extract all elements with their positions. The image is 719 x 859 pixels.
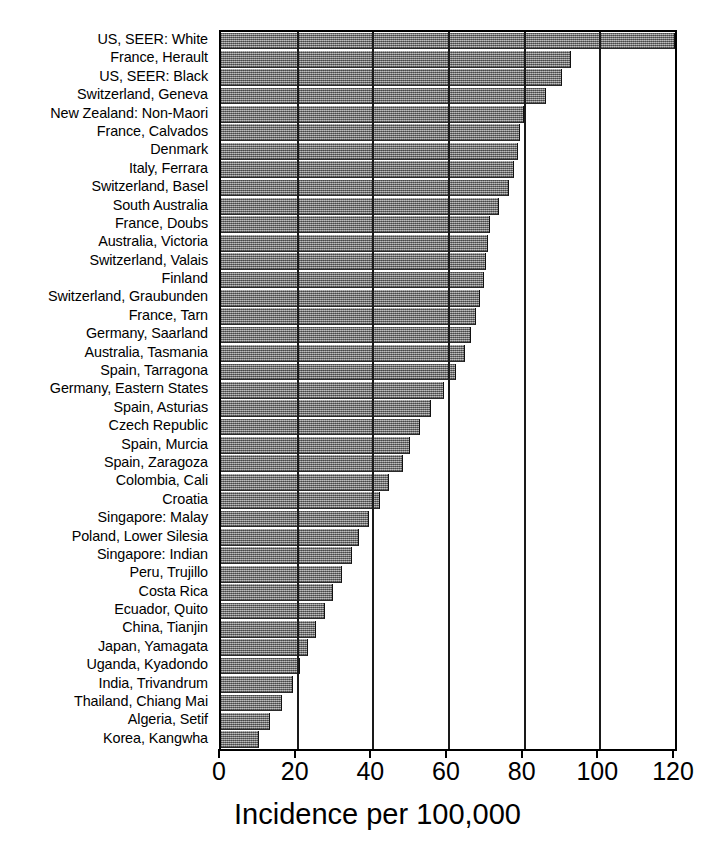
- category-label: Ecuador, Quito: [0, 600, 214, 618]
- category-label: Australia, Victoria: [0, 232, 214, 250]
- x-axis-title: Incidence per 100,000: [0, 800, 719, 829]
- bar-chart: US, SEER: WhiteFrance, HeraultUS, SEER: …: [0, 0, 719, 859]
- category-label: Czech Republic: [0, 416, 214, 434]
- category-label: Germany, Saarland: [0, 324, 214, 342]
- category-label: Korea, Kangwha: [0, 729, 214, 747]
- x-tick-label: 0: [212, 759, 226, 784]
- gridline: [372, 32, 374, 749]
- category-label: Singapore: Malay: [0, 508, 214, 526]
- category-label: New Zealand: Non-Maori: [0, 104, 214, 122]
- category-label: Poland, Lower Silesia: [0, 527, 214, 545]
- category-label: China, Tianjin: [0, 619, 214, 637]
- category-label: Japan, Yamagata: [0, 637, 214, 655]
- bar: [221, 455, 403, 472]
- bar: [221, 676, 293, 693]
- category-label: Uganda, Kyadondo: [0, 655, 214, 673]
- bar: [221, 713, 270, 730]
- category-label: Spain, Zaragoza: [0, 453, 214, 471]
- bar: [221, 308, 476, 325]
- bar: [221, 603, 325, 620]
- category-label: South Australia: [0, 196, 214, 214]
- gridline: [448, 32, 450, 749]
- category-label: France, Calvados: [0, 122, 214, 140]
- category-label: Switzerland, Valais: [0, 251, 214, 269]
- bar: [221, 382, 444, 399]
- bar: [221, 547, 352, 564]
- bar: [221, 161, 514, 178]
- bar: [221, 474, 389, 491]
- category-label: Peru, Trujillo: [0, 563, 214, 581]
- bar: [221, 511, 369, 528]
- bar: [221, 51, 571, 68]
- plot-area: [219, 30, 677, 751]
- bar: [221, 88, 546, 105]
- bar: [221, 345, 465, 362]
- category-label: India, Trivandrum: [0, 674, 214, 692]
- gridline: [599, 32, 601, 749]
- category-label: Germany, Eastern States: [0, 379, 214, 397]
- category-label: Italy, Ferrara: [0, 159, 214, 177]
- category-label: Costa Rica: [0, 582, 214, 600]
- bar: [221, 639, 308, 656]
- gridline: [524, 32, 526, 749]
- category-label: France, Doubs: [0, 214, 214, 232]
- bar: [221, 658, 300, 675]
- bar: [221, 290, 480, 307]
- category-label: Algeria, Setif: [0, 710, 214, 728]
- category-label: Spain, Asturias: [0, 398, 214, 416]
- x-tick-label: 80: [508, 759, 536, 784]
- category-label: Croatia: [0, 490, 214, 508]
- category-label: Australia, Tasmania: [0, 343, 214, 361]
- category-label: Switzerland, Graubunden: [0, 287, 214, 305]
- bar: [221, 272, 484, 289]
- bar: [221, 143, 518, 160]
- x-tick-label: 20: [281, 759, 309, 784]
- category-label: France, Herault: [0, 48, 214, 66]
- bar: [221, 180, 509, 197]
- gridline: [297, 32, 299, 749]
- plot-inner: [221, 32, 675, 749]
- x-tick-label: 100: [576, 759, 618, 784]
- bar: [221, 198, 499, 215]
- bar: [221, 419, 420, 436]
- bar: [221, 529, 359, 546]
- category-label: Colombia, Cali: [0, 471, 214, 489]
- bar: [221, 584, 333, 601]
- x-tick-label: 40: [356, 759, 384, 784]
- category-label: France, Tarn: [0, 306, 214, 324]
- category-label: Switzerland, Basel: [0, 177, 214, 195]
- category-label: Switzerland, Geneva: [0, 85, 214, 103]
- category-label: US, SEER: White: [0, 30, 214, 48]
- x-axis: 020406080100120: [219, 749, 677, 789]
- bar: [221, 492, 380, 509]
- category-label: Singapore: Indian: [0, 545, 214, 563]
- bar: [221, 124, 520, 141]
- category-label: Thailand, Chiang Mai: [0, 692, 214, 710]
- x-tick-label: 120: [652, 759, 694, 784]
- x-tick-label: 60: [432, 759, 460, 784]
- bar: [221, 621, 316, 638]
- category-label: Spain, Murcia: [0, 435, 214, 453]
- bar: [221, 69, 562, 86]
- bar: [221, 695, 282, 712]
- category-label-column: US, SEER: WhiteFrance, HeraultUS, SEER: …: [0, 30, 214, 747]
- category-label: US, SEER: Black: [0, 67, 214, 85]
- bar: [221, 364, 456, 381]
- bar: [221, 327, 471, 344]
- bar: [221, 400, 431, 417]
- bar: [221, 253, 486, 270]
- category-label: Finland: [0, 269, 214, 287]
- category-label: Denmark: [0, 140, 214, 158]
- bar: [221, 731, 259, 748]
- bar: [221, 437, 410, 454]
- bar: [221, 566, 342, 583]
- category-label: Spain, Tarragona: [0, 361, 214, 379]
